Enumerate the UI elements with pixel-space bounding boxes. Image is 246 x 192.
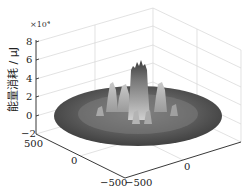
surface-plot: ×10⁴ 8 6 4 2 0 −2 能量消耗 / μJ 500 0 −500 −… [0,0,246,192]
x-tick-0: 0 [71,155,77,166]
z-axis-label: 能量消耗 / μJ [6,47,20,112]
x-tick-500: 500 [24,138,43,149]
z-tick-6: 6 [26,54,32,65]
y-tick-m500: −500 [125,177,152,188]
z-exponent-label: ×10⁴ [30,20,50,29]
z-tick-2: 2 [26,91,32,102]
y-tick-0: 0 [184,161,190,172]
z-tick-8: 8 [26,36,32,47]
z-tick-0: 0 [26,110,32,121]
z-tick-4: 4 [26,73,32,84]
x-tick-m500: −500 [100,177,127,188]
